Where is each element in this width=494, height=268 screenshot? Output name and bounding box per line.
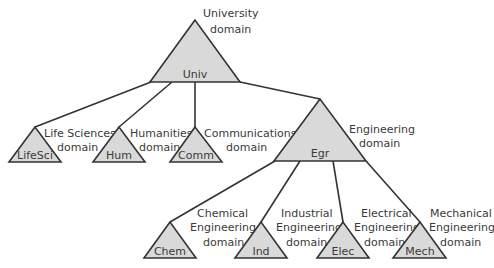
domain-label-univ-line2: domain bbox=[210, 23, 251, 36]
domain-label-comm-line2: domain bbox=[226, 141, 267, 154]
domain-label-elec-line1: Electrical bbox=[361, 207, 412, 220]
edge-univ-egr bbox=[240, 82, 320, 99]
node-label-univ: Univ bbox=[183, 68, 208, 81]
edge-univ-hum bbox=[119, 82, 172, 127]
domain-label-ind-line2: Engineering bbox=[276, 221, 342, 234]
domain-label-chem-line2: Engineering bbox=[190, 221, 256, 234]
domain-label-lifesci-line1: Life Sciences bbox=[44, 127, 116, 140]
domain-label-egr-line2: domain bbox=[359, 137, 400, 150]
domain-label-univ-line1: University bbox=[203, 7, 259, 20]
node-label-lifesci: LifeSci bbox=[17, 149, 53, 162]
node-label-elec: Elec bbox=[332, 245, 355, 258]
node-univ: Univ University domain bbox=[150, 7, 259, 82]
domain-label-elec-line3: domain bbox=[364, 236, 405, 249]
domain-label-egr-line1: Engineering bbox=[349, 123, 415, 136]
domain-tree-diagram: Univ University domain LifeSci Life Scie… bbox=[0, 0, 494, 268]
node-label-hum: Hum bbox=[106, 149, 132, 162]
domain-label-hum-line2: domain bbox=[139, 141, 180, 154]
domain-label-chem-line3: domain bbox=[203, 236, 244, 249]
domain-label-elec-line2: Engineering bbox=[354, 221, 420, 234]
domain-label-mech-line3: domain bbox=[440, 236, 481, 249]
domain-label-lifesci-line2: domain bbox=[57, 141, 98, 154]
domain-label-mech-line2: Engineering bbox=[429, 221, 494, 234]
edge-egr-elec bbox=[333, 161, 343, 222]
domain-label-hum-line1: Humanities bbox=[130, 127, 193, 140]
domain-label-comm-line1: Communications bbox=[204, 127, 297, 140]
domain-label-chem-line1: Chemical bbox=[197, 207, 248, 220]
node-label-mech: Mech bbox=[405, 245, 434, 258]
domain-label-ind-line3: domain bbox=[286, 236, 327, 249]
node-label-ind: Ind bbox=[252, 245, 269, 258]
node-label-comm: Comm bbox=[178, 149, 214, 162]
edge-univ-lifesci bbox=[35, 82, 151, 127]
node-label-egr: Egr bbox=[311, 147, 330, 160]
node-chem: Chem Chemical Engineering domain bbox=[144, 207, 256, 258]
domain-label-ind-line1: Industrial bbox=[281, 207, 333, 220]
node-label-chem: Chem bbox=[154, 245, 186, 258]
domain-label-mech-line1: Mechanical bbox=[430, 207, 492, 220]
